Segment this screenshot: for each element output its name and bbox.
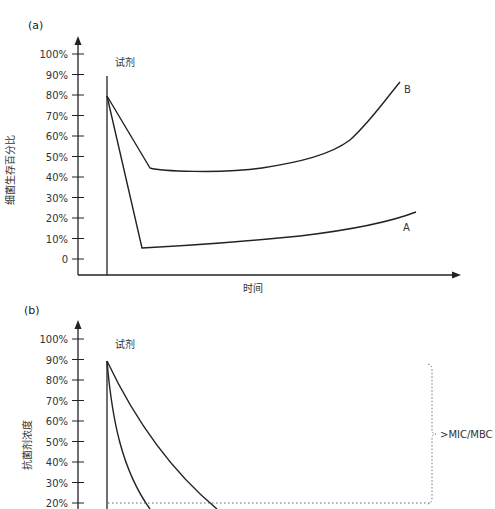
reagent-label-a: 试剂 [115,56,135,68]
panel-a-label: (a) [28,19,43,32]
tick-label: 10% [46,234,68,245]
x-axis-arrow-icon [452,272,461,279]
tick-label: 30% [46,193,68,204]
tick-label: 70% [46,396,68,407]
tick-label: 90% [46,70,68,81]
tick-label: 0 [62,254,68,265]
y-ticks-a: 100% 90% 80% 70% 60% 50% 40% 30% 20% 10%… [39,49,84,265]
tick-label: 70% [46,111,68,122]
tick-label: 40% [46,172,68,183]
figure: (a) 100% 90% 80% 70% 60% 50% 40% 30% 20%… [0,0,495,509]
tick-label: 20% [46,498,68,509]
y-axis-label-a: 细菌生存百分比 [4,135,16,205]
chart-b: (b) 100% 90% 80% 70% 60% 50% 40% 30% 20%… [21,304,493,509]
curve-a-label: A [403,222,410,233]
y-axis-arrow-icon [75,320,82,329]
tick-label: 20% [46,213,68,224]
tick-label: 40% [46,457,68,468]
tick-label: 80% [46,90,68,101]
curve-b-label: B [404,84,411,95]
tick-label: 30% [46,478,68,489]
threshold-label: >MIC/MBC [440,429,493,440]
y-axis-label-b: 抗菌剂浓度 [21,420,33,470]
x-axis-label-a: 时间 [243,282,263,294]
tick-label: 60% [46,416,68,427]
curve-fast-decay [107,361,150,509]
tick-label: 50% [46,437,68,448]
tick-label: 60% [46,131,68,142]
threshold-bracket [428,364,436,504]
chart-a: (a) 100% 90% 80% 70% 60% 50% 40% 30% 20%… [4,19,461,294]
y-axis-arrow-icon [75,36,82,45]
tick-label: 100% [39,49,68,60]
tick-label: 90% [46,355,68,366]
curve-slow-decay [107,361,217,509]
tick-label: 50% [46,152,68,163]
tick-label: 100% [39,334,68,345]
tick-label: 80% [46,375,68,386]
panel-b-label: (b) [24,304,40,317]
curve-b [107,82,400,171]
reagent-label-b: 试剂 [115,338,135,350]
y-ticks-b: 100% 90% 80% 70% 60% 50% 40% 30% 20% [39,334,84,509]
